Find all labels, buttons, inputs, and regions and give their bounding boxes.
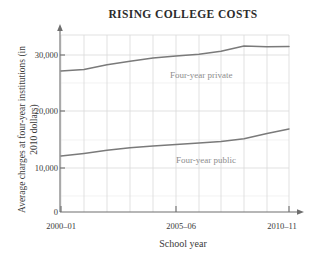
series-annotation-four-year-private: Four-year private	[170, 70, 233, 80]
gridlines-horizontal-minor	[61, 83, 289, 196]
gridlines-vertical	[61, 35, 289, 212]
series-line-four-year-public	[61, 129, 289, 156]
x-axis-ticks	[61, 206, 289, 212]
series-line-four-year-private	[61, 46, 289, 71]
series-annotation-four-year-public: Four-year public	[176, 155, 236, 165]
gridlines-horizontal-major	[61, 35, 289, 168]
chart-figure: RISING COLLEGE COSTS Average charges at …	[0, 0, 316, 261]
y-axis	[57, 24, 63, 212]
chart-plot-area	[0, 0, 316, 261]
